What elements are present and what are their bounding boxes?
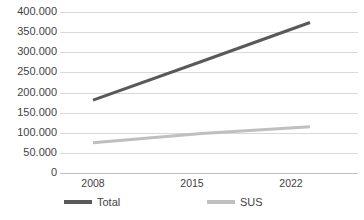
legend-entry-total[interactable]: Total	[64, 196, 120, 208]
legend: Total SUS	[0, 196, 364, 216]
legend-label: SUS	[240, 196, 263, 208]
legend-entry-sus[interactable]: SUS	[207, 196, 263, 208]
legend-swatch-icon	[64, 200, 92, 204]
series-layer	[0, 0, 364, 220]
series-line-total	[93, 22, 310, 100]
legend-swatch-icon	[207, 200, 235, 204]
series-line-sus	[93, 127, 310, 143]
line-chart: 400.000 350.000 300.000 250.000 200.000 …	[0, 0, 364, 220]
legend-label: Total	[97, 196, 120, 208]
